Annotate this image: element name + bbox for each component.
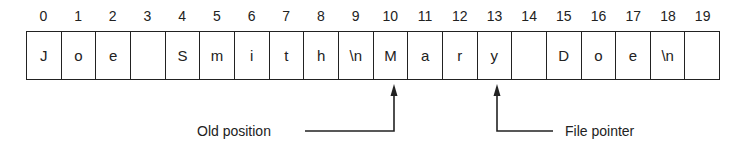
old-position-label: Old position <box>197 123 271 139</box>
pointer-arrows <box>0 0 752 153</box>
file-pointer-label: File pointer <box>565 123 634 139</box>
old-position-arrow-icon <box>305 84 398 131</box>
file-pointer-arrow-icon <box>494 84 554 131</box>
